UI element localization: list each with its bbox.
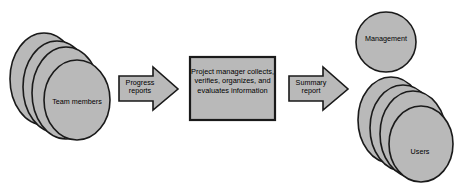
team-members-circle-front: [44, 60, 110, 140]
progress-reports-arrow: [119, 67, 178, 110]
users-circle-front: [389, 106, 453, 182]
diagram-canvas: Team members Progress reports Project ma…: [0, 0, 462, 185]
process-box: [190, 57, 275, 120]
management-circle: [356, 12, 416, 72]
summary-report-arrow: [289, 67, 348, 110]
diagram-graphics: [0, 0, 462, 185]
